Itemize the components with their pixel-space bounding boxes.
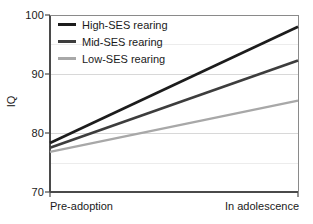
y-tick-marks: [45, 15, 50, 192]
legend-label-low-ses: Low-SES rearing: [82, 53, 165, 65]
y-tick-label-70: 70: [14, 187, 44, 198]
legend-entry-low-ses: Low-SES rearing: [58, 50, 208, 67]
legend-entry-mid-ses: Mid-SES rearing: [58, 33, 208, 50]
chart-figure: 100 90 80 70 IQ Pre-adoption In adolesce…: [0, 0, 313, 224]
y-tick-label-100: 100: [14, 10, 44, 21]
x-tick-label-pre-adoption: Pre-adoption: [50, 200, 113, 212]
chart-legend: High-SES rearing Mid-SES rearing Low-SES…: [58, 16, 208, 67]
legend-entry-high-ses: High-SES rearing: [58, 16, 208, 33]
legend-swatch-high-ses: [58, 23, 76, 26]
x-tick-label-in-adolescence: In adolescence: [225, 200, 299, 212]
y-tick-label-90: 90: [14, 69, 44, 80]
legend-label-high-ses: High-SES rearing: [82, 19, 168, 31]
legend-label-mid-ses: Mid-SES rearing: [82, 36, 163, 48]
x-tick-marks: [50, 192, 298, 197]
legend-swatch-mid-ses: [58, 40, 76, 43]
y-axis-title: IQ: [6, 82, 17, 122]
legend-swatch-low-ses: [58, 57, 76, 60]
y-tick-label-80: 80: [14, 128, 44, 139]
